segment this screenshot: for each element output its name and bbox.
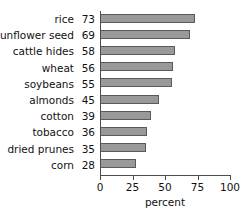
bar-row: tobacco36 <box>0 124 242 140</box>
bar-row-label: sunflower seed69 <box>0 27 95 43</box>
bar-row-label: cotton39 <box>40 108 95 124</box>
bar-row-label: wheat56 <box>42 60 95 76</box>
bar-row: corn28 <box>0 157 242 173</box>
bar-category-label: corn <box>51 159 74 171</box>
bar-value-label: 36 <box>78 124 95 140</box>
bar-chart: rice73sunflower seed69cattle hides58whea… <box>0 0 242 215</box>
bar-value-label: 35 <box>78 141 95 157</box>
x-tick <box>198 175 199 180</box>
bar-value-label: 55 <box>78 76 95 92</box>
bar-row-label: rice73 <box>55 11 95 27</box>
bar-category-label: wheat <box>42 62 74 74</box>
bar-row-label: corn28 <box>51 157 95 173</box>
bar-row: soybeans55 <box>0 76 242 92</box>
bar-row-label: dried prunes35 <box>7 141 95 157</box>
bar-value-label: 56 <box>78 60 95 76</box>
bar <box>100 111 151 120</box>
bar-row-label: tobacco36 <box>32 124 95 140</box>
x-axis-title: percent <box>100 196 230 208</box>
bar-row: rice73 <box>0 11 242 27</box>
bar <box>100 159 136 168</box>
bar-row: cattle hides58 <box>0 43 242 59</box>
x-tick <box>100 175 101 180</box>
bar-rows: rice73sunflower seed69cattle hides58whea… <box>0 11 242 173</box>
bar-row-label: soybeans55 <box>24 76 95 92</box>
y-axis-line <box>100 11 101 175</box>
bar <box>100 62 173 71</box>
bar-category-label: tobacco <box>32 126 74 138</box>
bar-value-label: 28 <box>78 157 95 173</box>
x-tick-label: 0 <box>97 181 104 193</box>
bar-row: cotton39 <box>0 108 242 124</box>
x-tick-label: 75 <box>191 181 204 193</box>
bar-row-label: almonds45 <box>29 92 95 108</box>
bar-row: wheat56 <box>0 60 242 76</box>
x-tick <box>230 175 231 180</box>
bar-value-label: 39 <box>78 108 95 124</box>
bar-value-label: 45 <box>78 92 95 108</box>
x-tick-label: 50 <box>158 181 171 193</box>
bar-category-label: cotton <box>40 110 74 122</box>
bar <box>100 30 190 39</box>
bar-row: sunflower seed69 <box>0 27 242 43</box>
x-tick <box>133 175 134 180</box>
x-tick <box>165 175 166 180</box>
bar-row: dried prunes35 <box>0 141 242 157</box>
bar-row-label: cattle hides58 <box>13 43 95 59</box>
bar-category-label: dried prunes <box>7 143 74 155</box>
bar-row: almonds45 <box>0 92 242 108</box>
bar <box>100 127 147 136</box>
bar <box>100 95 159 104</box>
x-tick-label: 100 <box>220 181 240 193</box>
bar-category-label: almonds <box>29 94 74 106</box>
bar <box>100 143 146 152</box>
x-tick-label: 25 <box>126 181 139 193</box>
bar <box>100 46 175 55</box>
bar-value-label: 58 <box>78 43 95 59</box>
bar-category-label: rice <box>55 13 74 25</box>
bar <box>100 14 195 23</box>
bar-category-label: soybeans <box>24 78 74 90</box>
bar-category-label: sunflower seed <box>0 29 74 41</box>
bar-value-label: 73 <box>78 11 95 27</box>
bar <box>100 78 172 87</box>
bar-category-label: cattle hides <box>13 45 74 57</box>
bar-value-label: 69 <box>78 27 95 43</box>
